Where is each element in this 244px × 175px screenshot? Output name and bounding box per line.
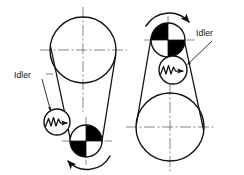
left-diagram	[40, 7, 127, 169]
diagram-page: Idler Idler	[0, 0, 244, 175]
right-leader-line	[188, 41, 213, 65]
left-idler-pulley	[44, 109, 70, 135]
centerlines-right-large	[126, 84, 215, 172]
idler-label-left: Idler	[14, 70, 31, 80]
right-idler-pulley	[159, 56, 187, 84]
left-leader-line	[42, 79, 51, 111]
left-rotation-arrow-icon	[68, 156, 110, 169]
right-small-pulley	[151, 23, 185, 57]
idler-label-right: Idler	[196, 28, 213, 38]
belt-drive-diagram	[0, 0, 244, 175]
left-small-pulley	[70, 125, 102, 157]
